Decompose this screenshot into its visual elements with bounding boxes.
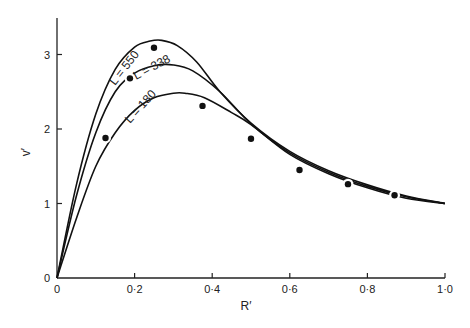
data-point bbox=[248, 135, 254, 141]
data-point bbox=[127, 75, 133, 81]
x-tick-label: 0·8 bbox=[359, 283, 375, 295]
curve-338 bbox=[57, 64, 445, 278]
y-tick-label: 0 bbox=[44, 272, 50, 284]
x-tick-label: 0 bbox=[54, 283, 60, 295]
x-tick-label: 0·4 bbox=[204, 283, 220, 295]
x-axis-label: R′ bbox=[241, 299, 253, 313]
data-point bbox=[296, 167, 302, 173]
y-tick-label: 2 bbox=[44, 123, 50, 135]
data-point bbox=[345, 181, 351, 187]
x-tick-label: 0·6 bbox=[282, 283, 298, 295]
y-tick-label: 3 bbox=[44, 49, 50, 61]
y-axis-label: v′ bbox=[19, 147, 33, 156]
chart: 00·20·40·60·81·00123 L = 550 L = 338 L =… bbox=[0, 0, 470, 328]
x-tick-label: 0·2 bbox=[127, 283, 143, 295]
curve-label-180: L = 180 bbox=[122, 87, 159, 126]
y-tick-label: 1 bbox=[44, 198, 50, 210]
curve-180 bbox=[57, 93, 445, 278]
x-tick-label: 1·0 bbox=[437, 283, 453, 295]
chart-svg: 00·20·40·60·81·00123 L = 550 L = 338 L =… bbox=[0, 0, 470, 328]
axes: 00·20·40·60·81·00123 bbox=[44, 18, 453, 295]
data-point bbox=[391, 192, 397, 198]
curve-labels: L = 550 L = 338 L = 180 bbox=[106, 48, 173, 126]
data-point bbox=[151, 45, 157, 51]
data-point bbox=[199, 103, 205, 109]
data-point bbox=[102, 135, 108, 141]
